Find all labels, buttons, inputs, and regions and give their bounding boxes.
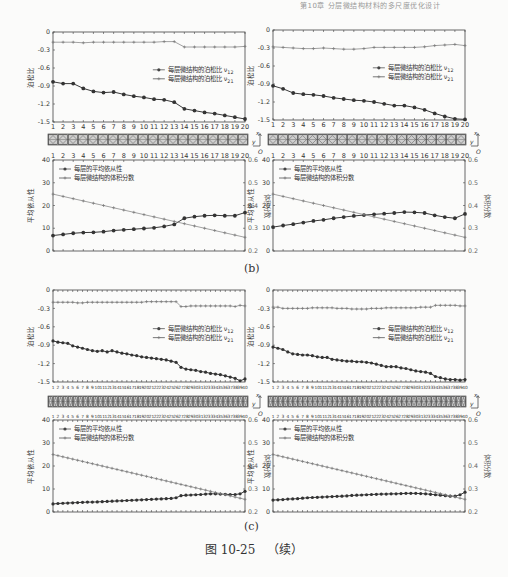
svg-text:0.5: 0.5 [468, 179, 478, 186]
svg-text:2: 2 [61, 152, 65, 160]
svg-text:2: 2 [57, 414, 60, 419]
svg-text:8: 8 [306, 414, 309, 419]
svg-text:5: 5 [311, 121, 315, 129]
y-axis-label: 泊松比 [246, 65, 255, 86]
svg-text:13: 13 [170, 152, 178, 160]
svg-text:14: 14 [180, 152, 188, 160]
svg-text:8: 8 [86, 385, 89, 390]
svg-text:2: 2 [61, 123, 65, 131]
svg-text:3: 3 [71, 123, 75, 131]
svg-text:-0.9: -0.9 [38, 82, 50, 89]
svg-text:每层微结构的体积分数: 每层微结构的体积分数 [294, 433, 355, 442]
svg-text:20: 20 [461, 121, 469, 129]
svg-text:40: 40 [42, 416, 50, 423]
svg-text:11: 11 [150, 123, 158, 131]
svg-text:15: 15 [410, 121, 418, 129]
svg-text:20: 20 [42, 462, 50, 469]
svg-text:30: 30 [42, 179, 50, 186]
svg-text:0.5: 0.5 [248, 439, 258, 446]
svg-text:10: 10 [262, 224, 270, 231]
svg-text:-1.2: -1.2 [38, 360, 50, 367]
svg-text:0: 0 [46, 247, 50, 254]
svg-text:y: y [251, 400, 256, 408]
y-axis-label: 平均依从性 [246, 449, 255, 484]
svg-text:30: 30 [42, 439, 50, 446]
y-axis-label: 泊松比 [26, 326, 35, 347]
svg-text:0.4: 0.4 [468, 202, 478, 209]
svg-text:16: 16 [420, 152, 428, 160]
svg-text:6: 6 [296, 385, 299, 390]
svg-text:O: O [476, 410, 481, 417]
svg-text:20: 20 [262, 202, 270, 209]
svg-text:12: 12 [160, 123, 168, 131]
svg-text:8: 8 [342, 121, 346, 129]
svg-text:1: 1 [52, 385, 55, 390]
svg-text:x: x [255, 392, 260, 398]
svg-text:3: 3 [291, 152, 295, 160]
chart-c-left-top: 1234567891011121314151617181920212223242… [26, 286, 248, 390]
svg-text:18: 18 [221, 123, 229, 131]
chart-b-left-top: 12345678910111213141516171819200-0.3-0.6… [26, 28, 249, 131]
svg-text:9: 9 [311, 385, 314, 390]
svg-text:-1.5: -1.5 [38, 378, 50, 385]
svg-text:30: 30 [262, 179, 270, 186]
svg-text:10: 10 [42, 224, 50, 231]
svg-text:0: 0 [266, 286, 270, 293]
svg-text:4: 4 [301, 121, 305, 129]
svg-text:0.3: 0.3 [248, 224, 258, 231]
svg-text:12: 12 [160, 152, 168, 160]
svg-text:x: x [473, 392, 478, 398]
svg-text:16: 16 [200, 152, 208, 160]
y-axis-label: 平均依从性 [246, 188, 255, 223]
svg-text:4: 4 [66, 385, 69, 390]
svg-text:y: y [469, 138, 474, 146]
svg-text:每层的平均依从性: 每层的平均依从性 [74, 164, 122, 173]
svg-text:17: 17 [431, 121, 439, 129]
svg-text:4: 4 [286, 385, 289, 390]
svg-text:20: 20 [241, 123, 249, 131]
svg-text:6: 6 [76, 385, 79, 390]
svg-text:-0.9: -0.9 [258, 80, 270, 87]
y-axis-label: 泊松比 [26, 67, 35, 88]
microstructure-strip [48, 134, 248, 145]
svg-text:-1.2: -1.2 [258, 98, 270, 105]
svg-text:x: x [255, 130, 260, 136]
svg-text:y: y [469, 400, 474, 408]
svg-text:每层微结构的泊松比 ν21: 每层微结构的泊松比 ν21 [388, 333, 454, 343]
svg-text:7: 7 [81, 385, 84, 390]
panel-label-c: (c) [244, 520, 259, 533]
svg-text:5: 5 [311, 152, 315, 160]
svg-text:1: 1 [272, 385, 275, 390]
svg-text:0.3: 0.3 [468, 485, 478, 492]
svg-text:20: 20 [262, 462, 270, 469]
svg-text:9: 9 [132, 123, 136, 131]
svg-text:18: 18 [221, 152, 229, 160]
svg-text:15: 15 [190, 123, 198, 131]
svg-text:1: 1 [52, 414, 55, 419]
svg-text:0.6: 0.6 [248, 416, 258, 423]
svg-text:6: 6 [101, 152, 105, 160]
svg-text:0.4: 0.4 [468, 462, 478, 469]
svg-text:-1.5: -1.5 [258, 378, 270, 385]
microstructure-strip [268, 134, 466, 145]
svg-text:30: 30 [262, 439, 270, 446]
svg-text:8: 8 [306, 385, 309, 390]
svg-text:0: 0 [266, 247, 270, 254]
svg-text:每层的平均依从性: 每层的平均依从性 [74, 424, 122, 433]
svg-text:3: 3 [281, 414, 284, 419]
coordinate-axes-icon: xyO [469, 392, 481, 417]
svg-text:O: O [258, 148, 263, 155]
svg-text:8: 8 [342, 152, 346, 160]
svg-text:9: 9 [311, 414, 314, 419]
svg-text:每层微结构的泊松比 ν12: 每层微结构的泊松比 ν12 [388, 63, 454, 73]
svg-text:-0.3: -0.3 [258, 44, 270, 51]
svg-text:16: 16 [200, 123, 208, 131]
svg-text:12: 12 [380, 121, 388, 129]
svg-text:8: 8 [122, 152, 126, 160]
figure-canvas: 12345678910111213141516171819200-0.3-0.6… [0, 0, 508, 577]
svg-text:y: y [251, 138, 256, 146]
svg-text:3: 3 [291, 121, 295, 129]
svg-text:0: 0 [46, 508, 50, 515]
svg-text:17: 17 [211, 123, 219, 131]
figure-caption: 图 10-25 （续） [0, 540, 508, 557]
